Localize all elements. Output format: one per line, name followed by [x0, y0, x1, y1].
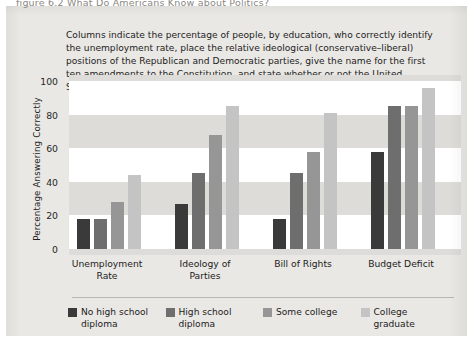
legend-item[interactable]: High school diploma: [166, 307, 264, 330]
bar-group: [69, 81, 167, 249]
chart-legend: No high school diplomaHigh school diplom…: [68, 307, 458, 330]
bar[interactable]: [111, 202, 124, 249]
legend-divider: [72, 297, 454, 298]
bar[interactable]: [192, 173, 205, 249]
scanned-page: figure 6.2 What Do Americans Know about …: [6, 6, 467, 336]
y-axis-tick-80: 80: [46, 109, 58, 120]
bar[interactable]: [128, 175, 141, 249]
bar[interactable]: [209, 135, 222, 249]
y-axis-tick-60: 60: [46, 143, 58, 154]
y-axis-ticks: 020406080100: [6, 75, 66, 255]
bar-groups: [69, 81, 461, 249]
x-axis-label: Bill of Rights: [265, 258, 363, 283]
legend-label: High school diploma: [179, 307, 257, 330]
bar[interactable]: [94, 219, 107, 249]
y-axis-tick-20: 20: [46, 210, 58, 221]
bar[interactable]: [175, 204, 188, 249]
legend-label: Some college: [276, 307, 337, 319]
bar[interactable]: [405, 106, 418, 249]
legend-swatch-icon: [68, 308, 77, 317]
y-axis-tick-100: 100: [40, 76, 58, 87]
legend-item[interactable]: College graduate: [361, 307, 459, 330]
legend-item[interactable]: No high school diploma: [68, 307, 166, 330]
bar-group: [265, 81, 363, 249]
legend-swatch-icon: [166, 308, 175, 317]
bar[interactable]: [388, 106, 401, 249]
bar[interactable]: [273, 219, 286, 249]
bar-group: [363, 81, 461, 249]
bar[interactable]: [422, 88, 435, 249]
legend-label: College graduate: [374, 307, 452, 330]
bar[interactable]: [290, 173, 303, 249]
x-axis-label: Budget Deficit: [363, 258, 461, 283]
legend-label: No high school diploma: [81, 307, 159, 330]
figure-root: figure 6.2 What Do Americans Know about …: [0, 0, 473, 340]
y-axis-tick-0: 0: [52, 244, 58, 255]
x-axis-labels: Unemployment RateIdeology of PartiesBill…: [69, 258, 461, 283]
bar[interactable]: [371, 152, 384, 249]
bar[interactable]: [226, 106, 239, 249]
bar[interactable]: [77, 219, 90, 249]
legend-swatch-icon: [361, 308, 370, 317]
y-axis-tick-40: 40: [46, 176, 58, 187]
legend-swatch-icon: [263, 308, 272, 317]
legend-item[interactable]: Some college: [263, 307, 361, 330]
x-axis-label: Unemployment Rate: [69, 258, 167, 283]
x-axis-label: Ideology of Parties: [167, 258, 265, 283]
bar[interactable]: [307, 152, 320, 249]
bar[interactable]: [324, 113, 337, 249]
plot-area: [69, 75, 461, 255]
bar-chart: Percentage Answering Correctly 020406080…: [6, 6, 467, 336]
bar-group: [167, 81, 265, 249]
